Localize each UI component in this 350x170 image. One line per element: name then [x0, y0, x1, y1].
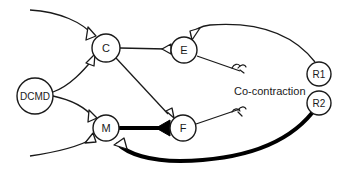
synapse-icon — [86, 27, 96, 40]
node-label: E — [180, 44, 187, 56]
edge-input-to-m — [30, 138, 94, 156]
edge-c-to-f — [116, 58, 168, 114]
node-label: DCMD — [20, 91, 50, 102]
co-contraction-label: Co-contraction — [234, 85, 306, 97]
synapse-icon — [190, 28, 200, 40]
node-f: F — [170, 115, 196, 141]
edge-r1-to-e — [191, 24, 315, 62]
node-dcmd: DCMD — [17, 78, 53, 114]
edge-input-to-c — [30, 10, 94, 36]
edge-dcmd-to-m — [53, 96, 94, 118]
node-label: F — [180, 122, 187, 134]
synapse-icon — [114, 138, 127, 149]
node-label: R2 — [313, 98, 326, 109]
node-r1: R1 — [307, 62, 331, 86]
node-label: C — [102, 42, 110, 54]
edge-e-to-ending — [197, 56, 240, 71]
edge-c-to-e — [120, 48, 166, 49]
synapse-icon — [162, 44, 171, 54]
edge-r2-to-m — [118, 113, 312, 161]
node-label: M — [101, 122, 110, 134]
node-m: M — [93, 115, 119, 141]
node-e: E — [171, 37, 197, 63]
edge-f-to-ending — [196, 109, 240, 124]
node-r2: R2 — [307, 91, 331, 115]
circuit-diagram: C E DCMD M F R1 R2 Co-contraction — [0, 0, 350, 170]
node-c: C — [92, 34, 120, 62]
strong-synapse-icon — [156, 120, 170, 136]
node-label: R1 — [313, 69, 326, 80]
